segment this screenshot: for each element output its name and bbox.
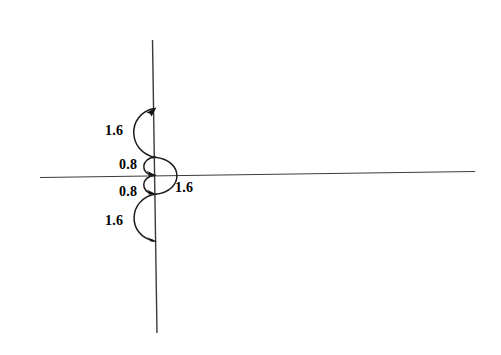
label-upper-outer: 1.6: [105, 124, 123, 138]
lower-large-arc: [134, 194, 155, 241]
arc-diagram-svg: [0, 0, 501, 355]
label-lower-outer: 1.6: [105, 214, 123, 228]
label-right-inner: 1.6: [175, 181, 193, 195]
upper-large-arc: [134, 109, 156, 158]
vertical-axis: [153, 40, 158, 333]
horizontal-axis: [40, 172, 475, 178]
label-upper-inner: 0.8: [119, 158, 137, 172]
figure-canvas: 1.6 0.8 0.8 1.6 1.6: [0, 0, 501, 355]
label-lower-inner: 0.8: [119, 185, 137, 199]
